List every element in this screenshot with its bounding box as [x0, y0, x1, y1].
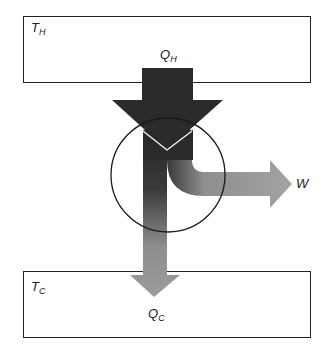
work-label: W	[296, 176, 308, 191]
heat-in-stem	[143, 130, 193, 160]
cold-reservoir-label: TC	[31, 279, 45, 296]
heat-out-label: QC	[148, 306, 165, 323]
hot-reservoir-label: TH	[31, 20, 45, 37]
heat-in-label: QH	[160, 47, 177, 64]
